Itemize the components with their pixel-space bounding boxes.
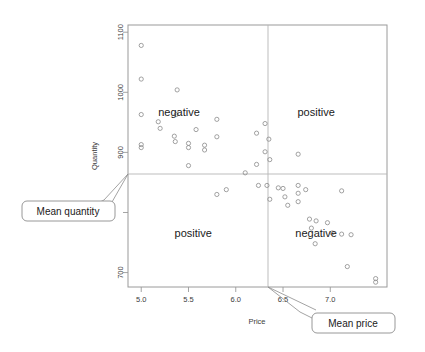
mean-price-leader-line-2 (268, 287, 316, 310)
scatter-plot-canvas: 5.05.56.06.57.0 70090010001100 negativep… (0, 0, 425, 352)
data-point (202, 148, 206, 152)
data-point (307, 217, 311, 221)
x-tick-label: 7.0 (325, 295, 335, 304)
mean-quantity-callout-label: Mean quantity (37, 206, 100, 217)
data-point (186, 164, 190, 168)
data-point (175, 88, 179, 92)
data-point (263, 121, 267, 125)
quadrant-label-bottom-left: positive (175, 227, 212, 239)
data-point (313, 242, 317, 246)
data-point (139, 112, 143, 116)
data-point (173, 139, 177, 143)
data-point (286, 203, 290, 207)
mean-price-leader-line (268, 287, 312, 318)
x-axis-ticks: 5.05.56.06.57.0 (136, 287, 335, 304)
chart-figure: 5.05.56.06.57.0 70090010001100 negativep… (0, 0, 425, 352)
data-point (304, 188, 308, 192)
data-point (254, 131, 258, 135)
mean-quantity-leader-line-2 (112, 174, 128, 202)
x-axis-title: Price (248, 317, 265, 326)
y-tick-label: 1100 (116, 24, 125, 40)
data-point (325, 221, 329, 225)
data-point (215, 192, 219, 196)
x-tick-label: 5.5 (183, 295, 193, 304)
data-point (340, 189, 344, 193)
data-point (283, 195, 287, 199)
data-point (267, 137, 271, 141)
data-point (186, 141, 190, 145)
data-point (156, 120, 160, 124)
data-point (296, 200, 300, 204)
data-point (186, 145, 190, 149)
mean-quantity-callout: Mean quantity (22, 174, 128, 221)
data-point (349, 233, 353, 237)
data-point (215, 117, 219, 121)
y-axis-title: Quantity (90, 142, 99, 170)
y-tick-label: 900 (116, 146, 125, 159)
data-point (256, 183, 260, 187)
x-tick-label: 6.0 (231, 295, 241, 304)
y-tick-label: 1000 (116, 84, 125, 101)
data-point (139, 43, 143, 47)
data-point (224, 188, 228, 192)
data-point (158, 126, 162, 130)
data-points-layer (139, 43, 378, 284)
plot-frame (128, 25, 387, 287)
data-point (345, 264, 349, 268)
data-point (296, 183, 300, 187)
mean-price-callout-label: Mean price (328, 318, 378, 329)
quadrant-label-bottom-right: negative (295, 227, 337, 239)
data-point (296, 191, 300, 195)
data-point (215, 135, 219, 139)
data-point (139, 77, 143, 81)
data-point (296, 152, 300, 156)
y-tick-label: 700 (116, 266, 125, 279)
quadrant-label-top-right: positive (297, 106, 334, 118)
data-point (263, 150, 267, 154)
mean-price-callout: Mean price (268, 287, 395, 333)
data-point (276, 186, 280, 190)
data-point (202, 143, 206, 147)
quadrant-label-top-left: negative (158, 106, 200, 118)
data-point (254, 162, 258, 166)
data-point (281, 186, 285, 190)
y-axis-ticks: 70090010001100 (116, 24, 128, 279)
data-point (340, 232, 344, 236)
data-point (172, 134, 176, 138)
data-point (139, 145, 143, 149)
x-tick-label: 5.0 (136, 295, 146, 304)
data-point (194, 127, 198, 131)
data-point (314, 219, 318, 223)
